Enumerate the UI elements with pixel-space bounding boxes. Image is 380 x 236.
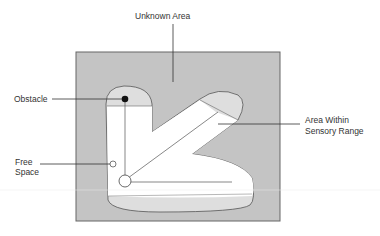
sensory-range-label-line1: Area Within (305, 115, 349, 125)
free-space-marker-icon (110, 161, 116, 167)
free-space-label-line1: Free (15, 157, 32, 167)
robot-icon (119, 175, 131, 187)
free-space-label-line2: Space (15, 167, 39, 177)
obstacle-label: Obstacle (14, 94, 48, 104)
obstacle-marker-icon (122, 96, 129, 103)
sensory-range-label-line2: Sensory Range (305, 126, 364, 136)
unknown-area-label: Unknown Area (135, 11, 190, 21)
